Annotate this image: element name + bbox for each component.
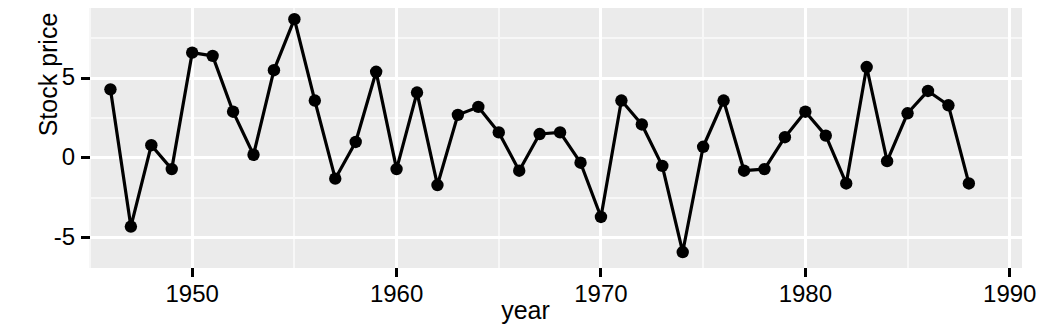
data-point: 1961: 4.1 bbox=[411, 86, 423, 98]
data-point: 1984: -0.2 bbox=[881, 155, 893, 167]
data-point: 1962: -1.7 bbox=[431, 179, 443, 191]
data-point: 1985: 2.8 bbox=[901, 107, 913, 119]
data-point: 1949: -0.7 bbox=[166, 163, 178, 175]
data-point: 1952: 2.9 bbox=[227, 105, 239, 117]
data-point: 1965: 1.6 bbox=[493, 126, 505, 138]
data-point: 1974: -5.9 bbox=[677, 246, 689, 258]
data-point: 1979: 1.3 bbox=[779, 131, 791, 143]
data-point: 1977: -0.8 bbox=[738, 165, 750, 177]
data-point: 1978: -0.7 bbox=[758, 163, 770, 175]
data-point: 1969: -0.3 bbox=[574, 157, 586, 169]
data-point: 1963: 2.7 bbox=[452, 109, 464, 121]
data-point: 1968: 1.6 bbox=[554, 126, 566, 138]
data-point: 1948: 0.8 bbox=[145, 139, 157, 151]
data-point: 1986: 4.2 bbox=[922, 85, 934, 97]
data-point: 1951: 6.4 bbox=[206, 50, 218, 62]
data-series-layer: 1946: 4.31947: -4.31948: 0.81949: -0.719… bbox=[0, 0, 1051, 329]
data-point: 1946: 4.3 bbox=[104, 83, 116, 95]
data-point: 1957: -1.3 bbox=[329, 172, 341, 184]
data-point: 1953: 0.2 bbox=[247, 149, 259, 161]
x-axis-title: year bbox=[0, 296, 1051, 325]
data-point: 1982: -1.6 bbox=[840, 177, 852, 189]
y-axis-title: Stock price bbox=[34, 0, 63, 175]
stock-price-line-chart: -50519501960197019801990 1946: 4.31947: … bbox=[0, 0, 1051, 329]
data-point: 1970: -3.7 bbox=[595, 211, 607, 223]
data-point: 1966: -0.8 bbox=[513, 165, 525, 177]
data-point: 1967: 1.5 bbox=[533, 128, 545, 140]
data-point: 1950: 6.6 bbox=[186, 46, 198, 58]
data-point: 1976: 3.6 bbox=[717, 94, 729, 106]
data-point: 1971: 3.6 bbox=[615, 94, 627, 106]
data-point: 1958: 1 bbox=[350, 136, 362, 148]
data-point: 1964: 3.2 bbox=[472, 101, 484, 113]
data-point: 1954: 5.5 bbox=[268, 64, 280, 76]
data-point: 1956: 3.6 bbox=[309, 94, 321, 106]
data-point: 1980: 2.9 bbox=[799, 105, 811, 117]
data-point: 1987: 3.3 bbox=[942, 99, 954, 111]
data-point: 1955: 8.7 bbox=[288, 13, 300, 25]
data-point: 1972: 2.1 bbox=[636, 118, 648, 130]
data-point: 1983: 5.7 bbox=[860, 61, 872, 73]
data-point: 1973: -0.5 bbox=[656, 160, 668, 172]
data-point: 1981: 1.4 bbox=[820, 129, 832, 141]
data-point: 1959: 5.4 bbox=[370, 66, 382, 78]
data-point: 1988: -1.6 bbox=[963, 177, 975, 189]
data-point: 1947: -4.3 bbox=[125, 220, 137, 232]
data-point: 1975: 0.7 bbox=[697, 141, 709, 153]
data-point: 1960: -0.7 bbox=[390, 163, 402, 175]
